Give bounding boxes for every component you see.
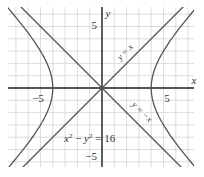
- y-tick-neg5: −5: [85, 150, 97, 162]
- x-tick-neg5: −5: [32, 92, 44, 104]
- equation-rhs: = 16: [93, 132, 116, 144]
- y-tick-pos5: 5: [92, 19, 98, 31]
- x-tick-pos5: 5: [164, 92, 170, 104]
- equation-minus: −: [72, 132, 84, 144]
- y-axis-label: y: [105, 7, 111, 19]
- hyperbola-chart: x y −5 5 5 −5 y = x y = −x x2 − y2 = 16: [0, 0, 204, 177]
- x-axis-label: x: [191, 74, 197, 86]
